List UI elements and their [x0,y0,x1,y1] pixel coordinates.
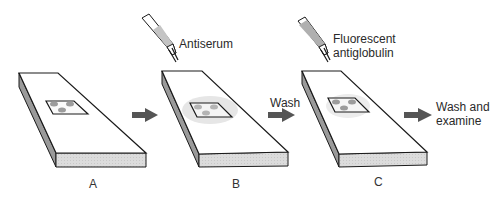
spot-icon [50,102,58,107]
pipette-b-icon [142,14,178,62]
arrow-label-wash: Wash [270,96,300,110]
diagram-canvas [0,0,496,197]
reagent-label-fluorescent: Fluorescent [333,32,396,46]
step-label-a: A [89,177,97,191]
step-label-b: B [232,177,240,191]
arrow-a-to-b-icon [132,108,158,122]
reagent-label-antiserum: Antiserum [179,37,233,51]
step-label-c: C [374,175,383,189]
arrow-b-to-c-icon [268,108,295,122]
spot-icon [340,106,348,111]
pipette-c-icon [298,17,330,62]
arrow-label-examine: examine [436,114,481,128]
slide-c [302,71,427,167]
spot-icon [348,100,356,105]
slide-a [19,73,146,167]
reagent-label-antiglobulin: antiglobulin [333,46,394,60]
spot-icon [58,108,66,113]
spot-icon [202,111,210,116]
slide-b [162,71,288,167]
spot-icon [332,100,340,105]
spot-icon [194,105,202,110]
spot-icon [210,105,218,110]
arrow-c-to-end-icon [404,108,432,122]
arrow-label-wash-and: Wash and [436,100,490,114]
spot-icon [66,102,74,107]
